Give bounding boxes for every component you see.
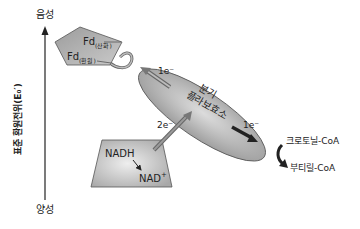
acceptor-reaction: 크로토닐-CoA 부티릴-CoA <box>278 136 340 173</box>
axis-title: 표준 환원전위(E₀′) <box>12 83 23 155</box>
axis-arrow-up-icon <box>42 26 49 35</box>
axis-bottom-label: 양성 <box>36 204 54 215</box>
ferredoxin-shape: Fd(산화) Fd(환원) <box>55 27 132 68</box>
electron-up-label: 1e⁻ <box>158 66 174 76</box>
nad-label: NAD <box>139 173 161 184</box>
butyryl-coa-label: 부티릴-CoA <box>290 163 336 173</box>
nadh-label: NADH <box>105 148 135 159</box>
flavin-bifurcation-diagram: 음성 양성 표준 환원전위(E₀′) Fd(산화) Fd(환원) 1e⁻ <box>0 0 360 229</box>
reduction-arrow <box>278 145 283 164</box>
fd-oxidized-label: Fd <box>83 36 95 47</box>
fd-oxidized-sub: (산화) <box>95 42 112 50</box>
crotonyl-coa-label: 크로토닐-CoA <box>286 136 340 146</box>
fd-reduced-label: Fd <box>67 51 79 62</box>
fd-reduced-sub: (환원) <box>79 57 96 64</box>
potential-axis: 음성 양성 표준 환원전위(E₀′) <box>12 9 54 215</box>
electron-down-label: 1e⁻ <box>243 120 259 130</box>
nad-sup: + <box>161 171 167 179</box>
axis-top-label: 음성 <box>36 9 54 20</box>
two-electron-label: 2e⁻ <box>157 120 173 130</box>
